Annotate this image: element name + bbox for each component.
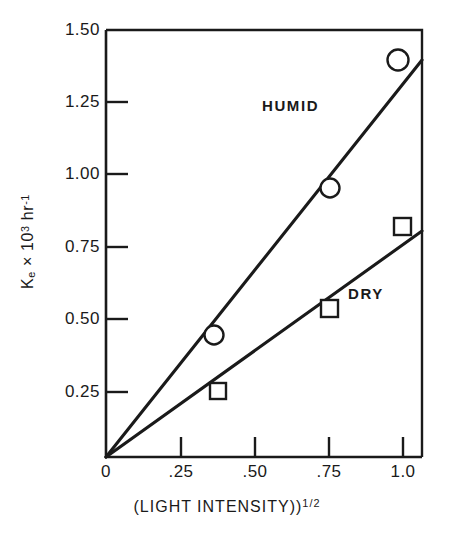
x-axis-title: (LIGHT INTENSITY))1/2 bbox=[0, 497, 454, 516]
x-tick-label-0-25: .25 bbox=[151, 462, 211, 482]
chart-figure: 1.50 1.25 1.00 0.75 0.50 0.25 0 .25 .50 … bbox=[0, 0, 454, 541]
dry-point-1 bbox=[210, 383, 226, 399]
axes-frame bbox=[106, 30, 422, 457]
x-tick-label-0-75: .75 bbox=[299, 462, 359, 482]
x-axis-ticks bbox=[181, 437, 403, 457]
y-tick-label-0-50: 0.50 bbox=[36, 309, 100, 329]
dry-fit-line bbox=[106, 231, 422, 457]
y-tick-label-1-50: 1.50 bbox=[36, 20, 100, 40]
y-axis-symbol: K bbox=[19, 278, 36, 289]
y-tick-label-1-25: 1.25 bbox=[36, 92, 100, 112]
x-tick-label-0-50: .50 bbox=[225, 462, 285, 482]
dry-point-3 bbox=[394, 218, 411, 235]
x-axis-title-exponent: 1/2 bbox=[302, 497, 320, 509]
y-tick-label-1-00: 1.00 bbox=[36, 164, 100, 184]
axis-lines-top-right bbox=[106, 30, 422, 457]
axis-lines-left-bottom bbox=[106, 30, 422, 457]
y-axis-times: × 10 bbox=[19, 232, 36, 271]
y-tick-label-0-25: 0.25 bbox=[36, 382, 100, 402]
humid-point-1 bbox=[205, 326, 224, 345]
y-axis-title: Ke × 103 hr-1 bbox=[19, 161, 38, 321]
y-axis-ticks bbox=[106, 102, 128, 392]
y-axis-subscript: e bbox=[25, 271, 37, 278]
y-tick-label-0-75: 0.75 bbox=[36, 237, 100, 257]
humid-fit-line bbox=[106, 60, 422, 457]
humid-point-2 bbox=[321, 179, 340, 198]
x-axis-title-text: (LIGHT INTENSITY) bbox=[134, 498, 297, 515]
humid-point-3 bbox=[388, 50, 409, 71]
x-tick-label-0: 0 bbox=[76, 462, 136, 482]
dry-data-markers bbox=[210, 218, 411, 399]
dry-series-label: DRY bbox=[348, 285, 384, 302]
y-axis-unit: hr bbox=[19, 205, 36, 225]
dry-point-2 bbox=[321, 300, 338, 317]
x-tick-label-1-0: 1.0 bbox=[373, 462, 433, 482]
humid-series-label: HUMID bbox=[262, 97, 319, 114]
y-axis-unit-exponent: -1 bbox=[19, 194, 31, 205]
y-axis-exponent: 3 bbox=[19, 225, 31, 232]
plot-canvas bbox=[0, 0, 454, 541]
